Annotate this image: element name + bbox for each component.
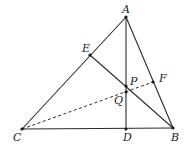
label-E: E <box>81 42 90 55</box>
label-C: C <box>13 131 22 144</box>
label-P: P <box>129 75 138 88</box>
point-F <box>151 80 154 83</box>
label-A: A <box>121 3 130 16</box>
label-D: D <box>122 131 132 144</box>
label-B: B <box>170 131 179 144</box>
label-Q: Q <box>114 94 123 107</box>
segment-CB <box>22 128 173 129</box>
triangle-diagram: A B C D E F P Q <box>0 0 192 161</box>
point-Q <box>124 90 127 93</box>
point-P <box>124 84 127 87</box>
segment-EB <box>90 55 173 128</box>
label-F: F <box>158 72 167 85</box>
segment-CF-dashed <box>22 82 153 129</box>
point-B <box>171 126 174 129</box>
